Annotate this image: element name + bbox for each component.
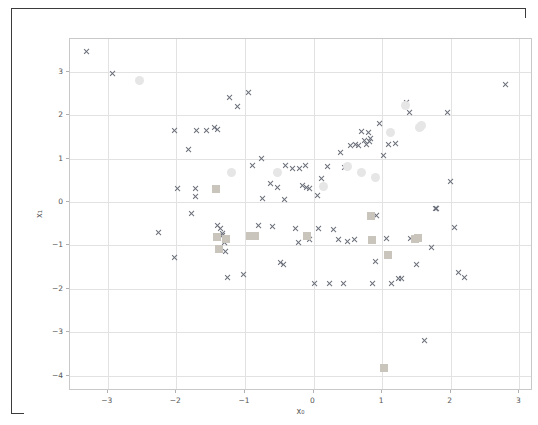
data-point-square — [222, 235, 230, 243]
data-point-cross — [372, 258, 379, 265]
data-point-square — [367, 212, 375, 220]
data-point-circle — [319, 182, 328, 191]
y-tick-label: 1 — [43, 153, 63, 162]
data-point-circle — [135, 76, 144, 85]
data-point-circle — [417, 121, 426, 130]
data-point-square — [384, 251, 392, 259]
data-point-cross — [413, 261, 420, 268]
x-tick-mark — [107, 390, 108, 393]
data-point-cross — [258, 155, 265, 162]
y-tick-label: 0 — [43, 196, 63, 205]
y-tick-label: −3 — [43, 327, 63, 336]
data-point-cross — [383, 235, 390, 242]
y-tick-label: −1 — [43, 240, 63, 249]
data-point-cross — [324, 163, 331, 170]
data-point-cross — [351, 236, 358, 243]
data-point-cross — [171, 254, 178, 261]
data-point-cross — [376, 120, 383, 127]
scatter-plot-axes[interactable] — [69, 38, 532, 390]
data-point-circle — [386, 128, 395, 137]
data-point-cross — [235, 103, 242, 110]
screenshot-root: −3−2−101233210−1−2−3−4 x₀ x₁ — [0, 0, 538, 425]
data-point-cross — [185, 146, 192, 153]
data-point-cross — [193, 127, 200, 134]
data-point-square — [215, 245, 223, 253]
x-tick-mark — [175, 390, 176, 393]
data-point-cross — [392, 140, 399, 147]
data-point-cross — [315, 225, 322, 232]
data-point-square — [251, 232, 259, 240]
data-point-cross — [109, 70, 116, 77]
data-point-square — [414, 234, 422, 242]
data-point-cross — [240, 271, 247, 278]
window-frame: −3−2−101233210−1−2−3−4 x₀ x₁ — [11, 8, 526, 414]
y-tick-mark — [66, 331, 69, 332]
data-point-cross — [433, 205, 440, 212]
y-tick-mark — [66, 71, 69, 72]
x-tick-mark — [450, 390, 451, 393]
data-point-cross — [192, 193, 199, 200]
y-tick-mark — [66, 158, 69, 159]
data-point-cross — [224, 274, 231, 281]
data-point-cross — [311, 280, 318, 287]
data-point-cross — [421, 337, 428, 344]
x-tick-mark — [244, 390, 245, 393]
y-tick-label: −2 — [43, 283, 63, 292]
data-point-cross — [259, 195, 266, 202]
data-point-cross — [307, 185, 314, 192]
x-tick-label: 2 — [447, 396, 452, 405]
data-point-cross — [250, 162, 257, 169]
data-point-cross — [84, 48, 91, 55]
data-point-cross — [318, 175, 325, 182]
data-point-cross — [451, 224, 458, 231]
x-tick-label: 3 — [516, 396, 521, 405]
x-tick-label: −1 — [238, 396, 249, 405]
data-point-cross — [369, 280, 376, 287]
data-point-circle — [357, 168, 366, 177]
data-point-cross — [368, 135, 375, 142]
data-point-cross — [174, 185, 181, 192]
data-point-cross — [192, 185, 199, 192]
data-point-cross — [428, 244, 435, 251]
data-point-cross — [337, 149, 344, 156]
data-point-circle — [401, 101, 410, 110]
data-point-cross — [406, 109, 413, 116]
data-point-cross — [292, 225, 299, 232]
data-point-square — [368, 236, 376, 244]
data-point-cross — [380, 152, 387, 159]
data-point-cross — [302, 162, 309, 169]
y-tick-label: 3 — [43, 66, 63, 75]
data-point-cross — [331, 226, 338, 233]
x-tick-label: 0 — [310, 396, 315, 405]
x-axis-label: x₀ — [297, 407, 305, 416]
data-point-square — [380, 364, 388, 372]
data-point-cross — [222, 248, 229, 255]
data-point-square — [213, 233, 221, 241]
data-point-cross — [226, 94, 233, 101]
data-point-circle — [227, 168, 236, 177]
figure-canvas: −3−2−101233210−1−2−3−4 x₀ x₁ — [24, 18, 537, 422]
y-tick-label: 2 — [43, 110, 63, 119]
data-point-circle — [273, 168, 282, 177]
x-tick-mark — [518, 390, 519, 393]
data-point-cross — [171, 127, 178, 134]
data-point-cross — [335, 236, 342, 243]
x-tick-label: 1 — [379, 396, 384, 405]
y-tick-mark — [66, 114, 69, 115]
data-point-cross — [204, 127, 211, 134]
data-point-circle — [343, 162, 352, 171]
y-tick-mark — [66, 375, 69, 376]
data-point-cross — [188, 210, 195, 217]
data-point-cross — [280, 261, 287, 268]
x-tick-mark — [381, 390, 382, 393]
x-tick-label: −3 — [101, 396, 112, 405]
data-points-layer — [70, 39, 531, 389]
data-point-cross — [269, 223, 276, 230]
data-point-cross — [245, 89, 252, 96]
x-tick-mark — [313, 390, 314, 393]
data-point-cross — [326, 280, 333, 287]
data-point-cross — [295, 239, 302, 246]
data-point-cross — [155, 229, 162, 236]
data-point-cross — [281, 196, 288, 203]
data-point-cross — [214, 126, 221, 133]
